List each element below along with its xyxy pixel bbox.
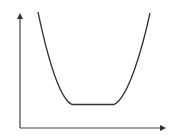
bathtub-curve: [38, 12, 150, 105]
diagram-canvas: [0, 0, 180, 140]
